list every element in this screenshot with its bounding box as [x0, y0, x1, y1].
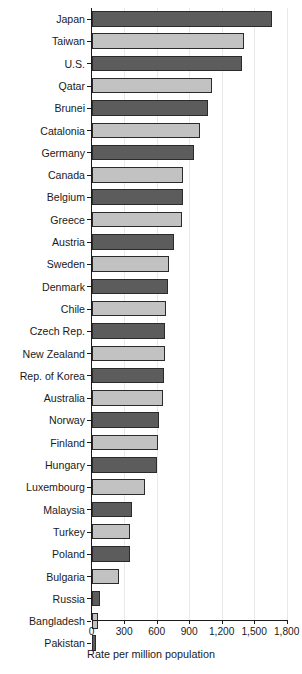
category-label: Russia	[0, 588, 85, 610]
category-label: Belgium	[0, 186, 85, 208]
bar-row	[92, 75, 287, 97]
bar-row	[92, 566, 287, 588]
category-label: Canada	[0, 164, 85, 186]
bar-row	[92, 454, 287, 476]
bar-rep-of-korea	[92, 368, 165, 384]
bar-row	[92, 365, 287, 387]
category-tick	[87, 576, 91, 577]
category-tick	[87, 130, 91, 131]
bar-row	[92, 499, 287, 521]
category-label: Qatar	[0, 75, 85, 97]
bar-row	[92, 610, 287, 632]
x-axis-label: Rate per million population	[0, 648, 302, 660]
bar-greece	[92, 212, 182, 228]
category-label: Austria	[0, 231, 85, 253]
category-tick	[87, 264, 91, 265]
plot-area	[92, 8, 287, 620]
category-label: Japan	[0, 8, 85, 30]
category-label: Poland	[0, 543, 85, 565]
bar-row	[92, 543, 287, 565]
bar-new-zealand	[92, 346, 165, 362]
bar-belgium	[92, 189, 183, 205]
category-tick	[87, 175, 91, 176]
bar-norway	[92, 412, 159, 428]
category-tick	[87, 309, 91, 310]
category-tick	[87, 152, 91, 153]
category-tick	[87, 41, 91, 42]
bar-canada	[92, 167, 184, 183]
bar-bulgaria	[92, 569, 120, 585]
category-tick	[87, 63, 91, 64]
bar-catalonia	[92, 123, 200, 139]
category-label: Finland	[0, 432, 85, 454]
bar-sweden	[92, 256, 169, 272]
bar-row	[92, 521, 287, 543]
category-label: Greece	[0, 209, 85, 231]
category-tick	[87, 353, 91, 354]
category-tick	[87, 331, 91, 332]
bar-row	[92, 476, 287, 498]
bar-brunei	[92, 100, 208, 116]
bar-row	[92, 253, 287, 275]
category-tick	[87, 509, 91, 510]
bar-row	[92, 298, 287, 320]
bar-taiwan	[92, 33, 244, 49]
category-tick	[87, 197, 91, 198]
category-label: Catalonia	[0, 120, 85, 142]
bar-turkey	[92, 524, 130, 540]
bar-russia	[92, 591, 100, 607]
bar-poland	[92, 546, 130, 562]
category-label: Czech Rep.	[0, 320, 85, 342]
category-tick	[87, 398, 91, 399]
category-tick	[87, 19, 91, 20]
bar-luxembourg	[92, 479, 145, 495]
category-label: Rep. of Korea	[0, 365, 85, 387]
x-axis-line	[92, 620, 288, 621]
bar-chile	[92, 301, 166, 317]
bar-row	[92, 387, 287, 409]
bar-qatar	[92, 78, 212, 94]
category-label: Taiwan	[0, 30, 85, 52]
category-tick	[87, 465, 91, 466]
bar-denmark	[92, 279, 168, 295]
bar-australia	[92, 390, 164, 406]
category-tick	[87, 554, 91, 555]
category-label: Bulgaria	[0, 566, 85, 588]
category-tick	[87, 219, 91, 220]
category-label: Denmark	[0, 276, 85, 298]
bar-row	[92, 588, 287, 610]
bar-row	[92, 120, 287, 142]
category-label: Hungary	[0, 454, 85, 476]
category-label: Turkey	[0, 521, 85, 543]
bar-u-s	[92, 56, 243, 72]
category-tick	[87, 420, 91, 421]
bar-austria	[92, 234, 174, 250]
bar-hungary	[92, 457, 157, 473]
bar-row	[92, 276, 287, 298]
category-tick	[87, 621, 91, 622]
gridline-1800	[287, 8, 288, 620]
bar-row	[92, 97, 287, 119]
category-label: Malaysia	[0, 499, 85, 521]
category-tick	[87, 108, 91, 109]
category-tick	[87, 487, 91, 488]
category-tick	[87, 598, 91, 599]
bar-finland	[92, 435, 158, 451]
category-tick	[87, 532, 91, 533]
bar-row	[92, 432, 287, 454]
category-label: U.S.	[0, 53, 85, 75]
bar-row	[92, 53, 287, 75]
category-label: Luxembourg	[0, 476, 85, 498]
bar-row	[92, 164, 287, 186]
bar-chart: 03006009001,2001,5001,800 JapanTaiwanU.S…	[0, 0, 302, 674]
category-label: New Zealand	[0, 343, 85, 365]
category-tick	[87, 643, 91, 644]
y-axis-line	[91, 8, 92, 620]
bar-row	[92, 186, 287, 208]
bar-row	[92, 409, 287, 431]
bar-row	[92, 30, 287, 52]
category-label: Chile	[0, 298, 85, 320]
bar-czech-rep	[92, 323, 166, 339]
category-tick	[87, 442, 91, 443]
category-tick	[87, 242, 91, 243]
